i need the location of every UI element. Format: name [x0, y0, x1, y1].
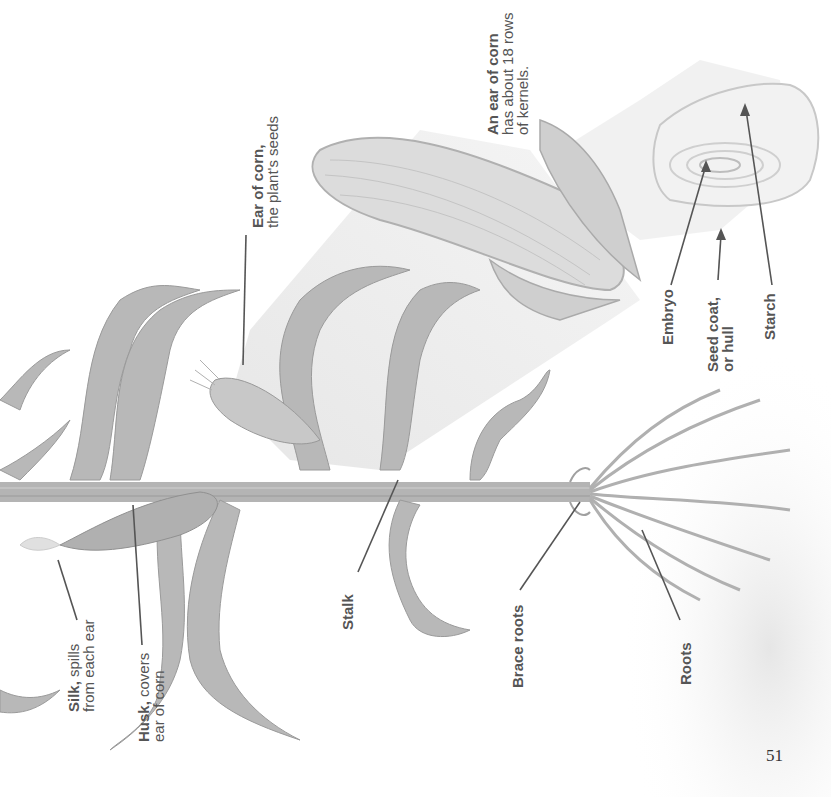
label-brace-roots: Brace roots — [510, 605, 525, 688]
label-silk: Silk, spills from each ear — [66, 619, 96, 712]
label-husk: Husk, covers ear of corn — [136, 653, 166, 742]
label-roots: Roots — [678, 643, 693, 686]
label-title: Starch — [761, 293, 778, 340]
label-seed-coat: Seed coat, or hull — [705, 297, 735, 372]
label-desc: or hull — [719, 326, 736, 372]
label-ear-rows: An ear of corn has about 18 rows of kern… — [485, 12, 530, 135]
label-starch: Starch — [762, 293, 777, 340]
label-title: Roots — [677, 643, 694, 686]
label-title: Stalk — [339, 594, 356, 630]
label-desc: the plant's seeds — [264, 116, 281, 228]
corn-plant-illustration — [0, 0, 831, 797]
page-number: 51 — [766, 746, 783, 766]
label-embryo: Embryo — [660, 289, 675, 345]
label-ear-of-corn: Ear of corn, the plant's seeds — [250, 116, 280, 228]
label-desc: ear of corn — [150, 670, 167, 742]
soil — [585, 300, 831, 797]
label-title: Embryo — [659, 289, 676, 345]
stalk — [0, 482, 590, 502]
label-desc: of kernels. — [514, 66, 531, 135]
label-title: Brace roots — [509, 605, 526, 688]
label-desc: from each ear — [80, 619, 97, 712]
label-stalk: Stalk — [340, 594, 355, 630]
